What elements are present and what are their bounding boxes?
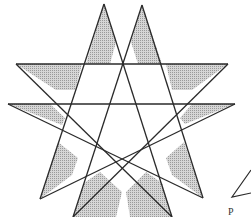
shaded-regions bbox=[8, 4, 235, 217]
upper-left-arm-shade bbox=[16, 64, 82, 90]
lower-left-arm-shade bbox=[8, 104, 65, 125]
partial-triangle bbox=[232, 170, 251, 197]
pentagram-diagram bbox=[0, 0, 251, 217]
caption-fragment: P bbox=[228, 206, 234, 217]
lower-right-arm-shade bbox=[180, 104, 235, 124]
partial-triangle bbox=[232, 170, 251, 197]
upper-right-arm-shade bbox=[166, 64, 228, 90]
